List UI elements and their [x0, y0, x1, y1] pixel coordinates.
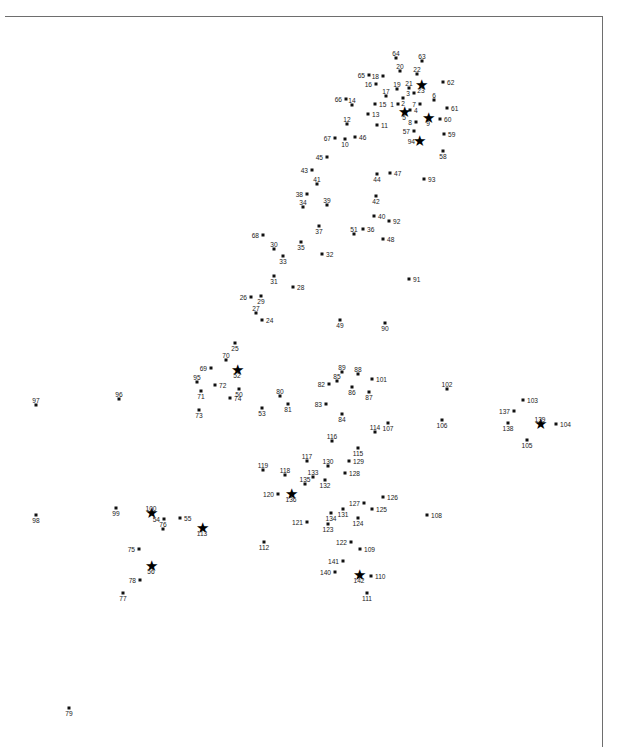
scatter-point-label: 7 [412, 101, 416, 108]
scatter-point-marker [376, 124, 379, 127]
scatter-point-label: 4 [414, 107, 418, 114]
scatter-point-label: 136 [285, 496, 296, 503]
scatter-point-label: 10 [341, 141, 348, 148]
scatter-point-marker [513, 410, 516, 413]
scatter-point-label: 84 [338, 416, 345, 423]
scatter-point-label: 88 [354, 366, 361, 373]
scatter-point-label: 128 [349, 470, 360, 477]
scatter-point-label: 78 [129, 577, 136, 584]
scatter-point-label: 138 [502, 425, 513, 432]
scatter-point-label: 40 [378, 213, 385, 220]
scatter-point-marker [292, 286, 295, 289]
scatter-point-label: 60 [444, 116, 451, 123]
scatter-point-label: 52 [233, 372, 240, 379]
scatter-point-label: 126 [387, 494, 398, 501]
scatter-point-marker [179, 517, 182, 520]
scatter-point-marker [367, 113, 370, 116]
scatter-point-label: 115 [353, 450, 364, 457]
scatter-point-marker [363, 502, 366, 505]
scatter-point-label: 5 [402, 114, 406, 121]
scatter-point-marker [443, 133, 446, 136]
scatter-point-label: 99 [112, 510, 119, 517]
scatter-point-label: 134 [325, 515, 336, 522]
scatter-point-label: 117 [302, 453, 313, 460]
scatter-point-marker [311, 169, 314, 172]
scatter-point-marker [350, 541, 353, 544]
scatter-point-label: 23 [417, 87, 424, 94]
scatter-point-label: 79 [65, 710, 72, 717]
scatter-point-marker [328, 383, 331, 386]
scatter-point-marker [139, 579, 142, 582]
scatter-point-marker [306, 193, 309, 196]
scatter-point-label: 96 [115, 391, 122, 398]
scatter-point-label: 113 [197, 530, 208, 537]
scatter-point-label: 14 [348, 97, 355, 104]
scatter-point-label: 92 [393, 218, 400, 225]
scatter-point-label: 13 [372, 111, 379, 118]
scatter-point-marker [439, 118, 442, 121]
scatter-point-label: 28 [297, 284, 304, 291]
scatter-point-label: 125 [376, 506, 387, 513]
scatter-point-label: 119 [258, 462, 269, 469]
scatter-point-label: 72 [219, 382, 226, 389]
scatter-point-label: 53 [258, 410, 265, 417]
scatter-point-label: 118 [280, 467, 291, 474]
scatter-point-label: 87 [365, 394, 372, 401]
scatter-point-label: 129 [353, 458, 364, 465]
scatter-point-label: 21 [405, 80, 412, 87]
scatter-point-label: 41 [313, 176, 320, 183]
scatter-point-marker [368, 74, 371, 77]
scatter-point-marker [370, 575, 373, 578]
scatter-point-label: 65 [358, 72, 365, 79]
scatter-point-label: 58 [439, 153, 446, 160]
scatter-point-label: 17 [382, 88, 389, 95]
scatter-point-marker [555, 423, 558, 426]
scatter-point-label: 101 [376, 376, 387, 383]
scatter-point-label: 70 [222, 352, 229, 359]
scatter-point-marker [277, 493, 280, 496]
scatter-point-marker [382, 496, 385, 499]
scatter-point-label: 116 [327, 433, 338, 440]
scatter-point-marker [344, 472, 347, 475]
scatter-point-label: 132 [319, 482, 330, 489]
scatter-point-marker [442, 81, 445, 84]
scatter-point-marker [382, 238, 385, 241]
scatter-point-marker [325, 403, 328, 406]
scatter-point-label: 36 [367, 226, 374, 233]
scatter-point-marker [419, 103, 422, 106]
scatter-point-label: 45 [316, 154, 323, 161]
scatter-point-label: 34 [299, 199, 306, 206]
scatter-point-label: 25 [231, 345, 238, 352]
scatter-point-label: 114 [370, 424, 381, 431]
scatter-point-label: 106 [436, 422, 447, 429]
scatter-point-marker [250, 296, 253, 299]
scatter-point-label: 121 [292, 519, 303, 526]
scatter-point-label: 57 [403, 128, 410, 135]
scatter-point-marker [408, 278, 411, 281]
scatter-point-label: 49 [336, 322, 343, 329]
scatter-point-label: 31 [270, 278, 277, 285]
scatter-point-label: 37 [315, 228, 322, 235]
scatter-point-label: 80 [276, 388, 283, 395]
scatter-point-label: 11 [381, 122, 388, 129]
scatter-point-label: 89 [338, 364, 345, 371]
scatter-point-label: 86 [348, 389, 355, 396]
scatter-point-label: 29 [257, 298, 264, 305]
scatter-point-label: 16 [365, 81, 372, 88]
scatter-point-label: 111 [362, 595, 372, 602]
scatter-point-marker [426, 514, 429, 517]
scatter-point-label: 18 [372, 73, 379, 80]
scatter-point-label: 30 [270, 241, 277, 248]
scatter-point-label: 63 [418, 53, 425, 60]
scatter-point-label: 77 [119, 595, 126, 602]
scatter-point-label: 90 [381, 325, 388, 332]
scatter-point-label: 83 [315, 401, 322, 408]
scatter-point-label: 103 [527, 397, 538, 404]
scatter-point-label: 110 [375, 573, 386, 580]
scatter-point-label: 120 [263, 491, 274, 498]
scatter-point-label: 12 [343, 116, 350, 123]
scatter-point-label: 39 [323, 197, 330, 204]
scatter-point-marker [388, 220, 391, 223]
scatter-point-label: 133 [307, 469, 318, 476]
scatter-point-label: 142 [353, 577, 364, 584]
